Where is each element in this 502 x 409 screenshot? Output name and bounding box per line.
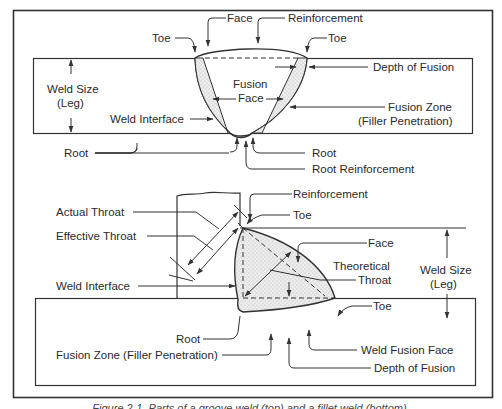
weld-diagram: Face Reinforcement Toe Toe Depth of Fusi… (0, 0, 502, 409)
fillet-weld-size-label-1: Weld Size (420, 264, 472, 276)
fillet-weld-interface-label: Weld Interface (56, 280, 130, 292)
fillet-face-label: Face (368, 237, 394, 249)
fillet-theoretical-throat-label-1: Theoretical (333, 260, 390, 272)
fillet-reinforcement-label: Reinforcement (293, 188, 369, 200)
fillet-weld-size-label-2: (Leg) (430, 278, 457, 290)
groove-weld-size-label-1: Weld Size (47, 83, 99, 95)
groove-face-label: Face (227, 12, 253, 24)
groove-fusion-zone-label-2: (Filler Penetration) (358, 115, 453, 127)
groove-weld: Face Reinforcement Toe Toe Depth of Fusi… (34, 0, 473, 175)
groove-depth-of-fusion-label: Depth of Fusion (373, 61, 454, 73)
fillet-effective-throat-label: Effective Throat (56, 230, 137, 242)
groove-reinforcement-label: Reinforcement (288, 12, 364, 24)
fillet-actual-throat-label: Actual Throat (56, 206, 125, 218)
fillet-weld-fusion-face-label: Weld Fusion Face (361, 344, 453, 356)
fillet-weld: Reinforcement Actual Throat Toe Effectiv… (36, 188, 476, 386)
figure-caption: Figure 2-1. Parts of a groove weld (top)… (0, 398, 502, 409)
fillet-theoretical-throat-label-2: Throat (358, 274, 392, 286)
fillet-root-label: Root (176, 333, 201, 345)
fillet-depth-of-fusion-label: Depth of Fusion (374, 362, 455, 374)
fillet-vertical-plate (177, 192, 240, 298)
groove-weld-interface-label: Weld Interface (110, 113, 184, 125)
groove-root-right-label: Root (312, 147, 337, 159)
groove-toe-right-label: Toe (328, 32, 347, 44)
groove-fusion-face-label-2: Face (238, 92, 264, 104)
fillet-fusion-zone-label: Fusion Zone (Filler Penetration) (56, 349, 218, 361)
groove-fusion-face-label-1: Fusion (233, 78, 268, 90)
fillet-toe-right-label: Toe (373, 300, 392, 312)
groove-root-reinforcement-label: Root Reinforcement (312, 163, 415, 175)
groove-fusion-zone-label-1: Fusion Zone (388, 101, 452, 113)
fillet-toe-top-label: Toe (293, 209, 312, 221)
groove-root-left-label: Root (64, 147, 89, 159)
groove-toe-left-label: Toe (152, 32, 171, 44)
fillet-weld-bead (235, 228, 335, 312)
groove-weld-size-label-2: (Leg) (57, 97, 84, 109)
